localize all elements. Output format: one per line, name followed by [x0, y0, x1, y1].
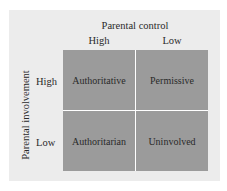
column-header-high: High — [63, 35, 135, 46]
cell-uninvolved: Uninvolved — [136, 111, 208, 171]
row-header-low: Low — [36, 137, 60, 148]
y-axis-title: Parental involvement — [20, 70, 31, 160]
cell-authoritarian: Authoritarian — [63, 111, 135, 171]
row-header-high: High — [36, 76, 60, 87]
cell-permissive: Permissive — [136, 50, 208, 110]
cell-authoritative: Authoritative — [63, 50, 135, 110]
column-header-low: Low — [136, 35, 208, 46]
quadrant-grid: Authoritative Permissive Authoritarian U… — [63, 50, 208, 171]
x-axis-title: Parental control — [63, 20, 207, 31]
